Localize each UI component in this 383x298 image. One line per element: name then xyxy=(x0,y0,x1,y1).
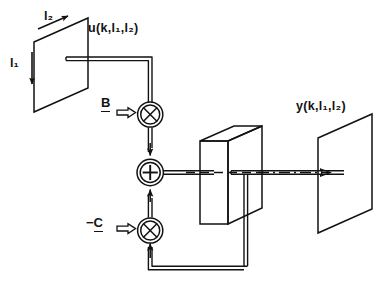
diagram-canvas: u(k,l₁,l₂) y(k,l₁,l₂) l₂ l₁ B −C xyxy=(0,0,383,298)
diagram-graphics xyxy=(0,0,383,298)
signal-path-c-to-adder xyxy=(148,190,152,218)
gain-b-label: B xyxy=(101,96,110,109)
gain-c-sign: − xyxy=(86,215,94,230)
multiplier-b[interactable] xyxy=(138,102,163,127)
output-plane xyxy=(318,114,372,233)
input-plane xyxy=(34,18,88,112)
gain-c-arrow xyxy=(117,224,136,234)
axis-l2-label: l₂ xyxy=(44,10,53,23)
gain-b-arrow xyxy=(117,108,136,118)
gain-b-text: B xyxy=(101,95,110,112)
feedback-tap xyxy=(244,174,248,266)
gain-c-label: −C xyxy=(86,216,103,229)
output-signal-label: y(k,l₁,l₂) xyxy=(296,100,346,113)
signal-path-b-to-adder xyxy=(148,127,152,155)
axis-l1-label: l₁ xyxy=(10,57,19,70)
multiplier-c[interactable] xyxy=(138,218,163,243)
feedback-rail xyxy=(148,244,247,270)
summing-junction[interactable] xyxy=(137,159,163,185)
gain-c-text: C xyxy=(94,215,103,232)
input-signal-label: u(k,l₁,l₂) xyxy=(88,22,139,35)
